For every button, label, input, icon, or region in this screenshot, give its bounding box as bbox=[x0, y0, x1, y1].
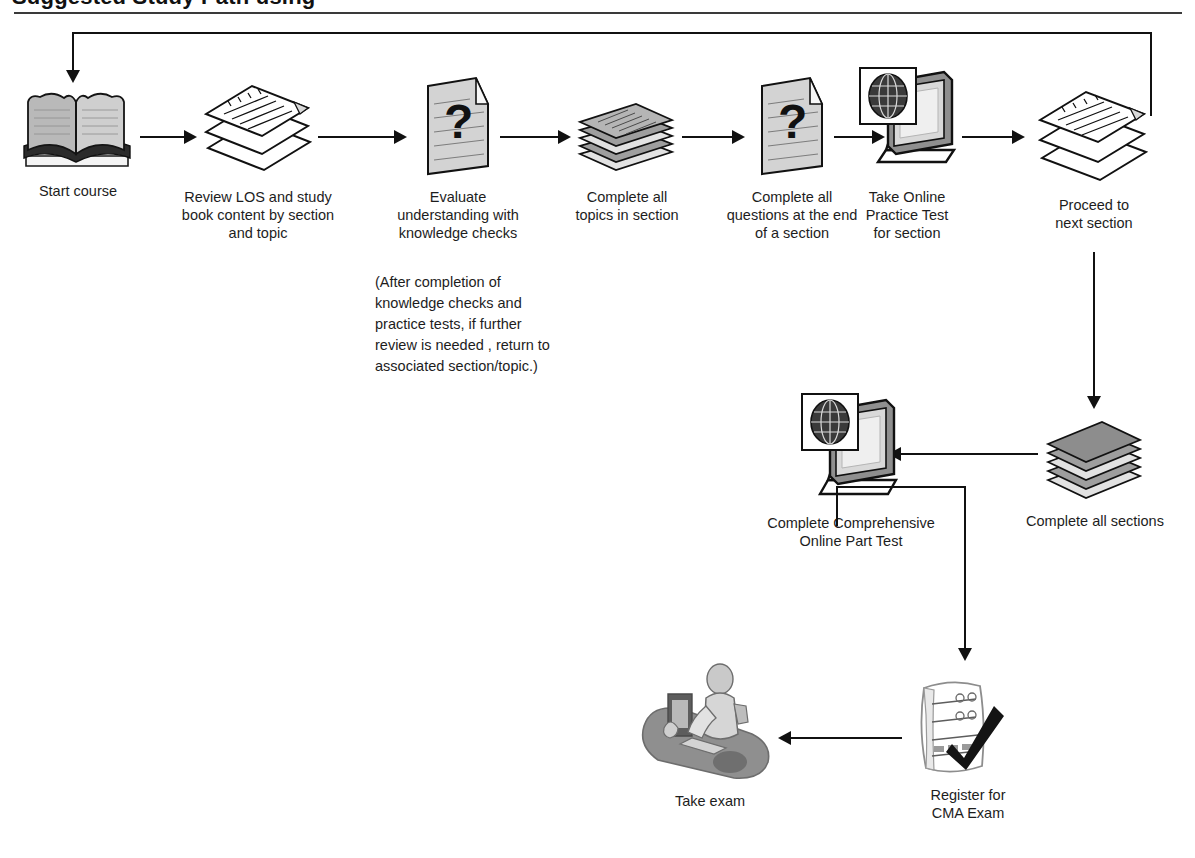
edge-proceed-to-allsections-arrowhead bbox=[1087, 396, 1101, 409]
computer-globe-icon bbox=[848, 58, 966, 176]
form-check-icon bbox=[908, 672, 1024, 782]
edge-register-to-takeexam bbox=[790, 737, 902, 739]
book-stack-icon bbox=[1040, 414, 1148, 502]
edge-parttest-elbow-down-a bbox=[836, 486, 838, 526]
edge-topics-to-questions-arrowhead bbox=[732, 130, 745, 144]
title-divider bbox=[14, 12, 1182, 14]
open-book-icon bbox=[18, 80, 136, 175]
study-note: (After completion of knowledge checks an… bbox=[375, 272, 635, 377]
node-takeexam[interactable]: Take exam bbox=[622, 660, 802, 788]
computer-globe-icon bbox=[790, 384, 908, 508]
node-evaluate[interactable]: ? Evaluate understanding with knowledge … bbox=[414, 76, 506, 176]
node-practice[interactable]: Take Online Practice Test for section bbox=[848, 58, 968, 176]
document-stack-icon bbox=[1032, 78, 1156, 186]
node-parttest[interactable]: Complete Comprehensive Online Part Test bbox=[790, 384, 910, 508]
edge-start-to-review bbox=[140, 136, 186, 138]
edge-practice-to-proceed-arrowhead bbox=[1012, 130, 1025, 144]
edge-parttest-to-register bbox=[964, 486, 966, 652]
node-start-label: Start course bbox=[6, 182, 150, 200]
node-questions[interactable]: ? Complete all questions at the end of a… bbox=[748, 76, 840, 176]
feedback-loop-top-segment bbox=[72, 32, 1152, 34]
edge-start-to-review-arrowhead bbox=[184, 130, 197, 144]
node-review-label: Review LOS and study book content by sec… bbox=[160, 188, 356, 242]
node-allsections[interactable]: Complete all sections bbox=[1040, 414, 1150, 502]
edge-parttest-to-register-arrowhead bbox=[958, 648, 972, 661]
node-allsections-label: Complete all sections bbox=[996, 512, 1194, 530]
node-register-label: Register for CMA Exam bbox=[894, 786, 1042, 822]
person-at-desk-icon bbox=[622, 660, 802, 788]
edge-evaluate-to-topics-arrowhead bbox=[558, 130, 571, 144]
node-proceed[interactable]: Proceed to next section bbox=[1032, 78, 1156, 186]
node-start[interactable]: Start course bbox=[18, 80, 138, 175]
edge-review-to-evaluate bbox=[318, 136, 396, 138]
page-title: Suggested Study Path using bbox=[12, 0, 315, 10]
node-evaluate-label: Evaluate understanding with knowledge ch… bbox=[360, 188, 556, 242]
node-topics[interactable]: Complete all topics in section bbox=[572, 96, 682, 176]
edge-evaluate-to-topics bbox=[500, 136, 560, 138]
question-document-icon: ? bbox=[414, 76, 502, 176]
edge-proceed-to-allsections bbox=[1093, 252, 1095, 400]
svg-text:?: ? bbox=[444, 95, 473, 148]
svg-text:?: ? bbox=[778, 95, 807, 148]
node-takeexam-label: Take exam bbox=[630, 792, 790, 810]
node-register[interactable]: Register for CMA Exam bbox=[908, 672, 1028, 782]
node-topics-label: Complete all topics in section bbox=[544, 188, 710, 224]
node-parttest-label: Complete Comprehensive Online Part Test bbox=[738, 514, 964, 550]
question-document-icon: ? bbox=[748, 76, 836, 176]
edge-allsections-to-parttest bbox=[900, 453, 1038, 455]
node-review[interactable]: Review LOS and study book content by sec… bbox=[198, 70, 318, 175]
edge-review-to-evaluate-arrowhead bbox=[394, 130, 407, 144]
feedback-loop-left-segment bbox=[72, 32, 74, 74]
document-stack-icon bbox=[198, 70, 318, 175]
node-practice-label: Take Online Practice Test for section bbox=[824, 188, 990, 242]
edge-topics-to-questions bbox=[682, 136, 734, 138]
node-proceed-label: Proceed to next section bbox=[1024, 196, 1164, 232]
book-stack-icon bbox=[572, 96, 680, 176]
edge-practice-to-proceed bbox=[962, 136, 1014, 138]
edge-parttest-elbow-across bbox=[836, 486, 966, 488]
